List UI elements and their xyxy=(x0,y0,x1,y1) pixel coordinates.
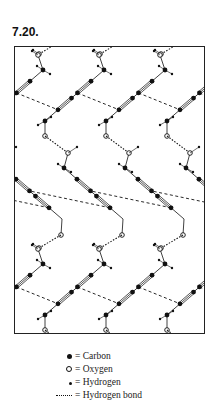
legend: = Carbon = Oxygen = Hydrogen = Hydrogen … xyxy=(46,350,142,402)
legend-hbond-label: = Hydrogen bond xyxy=(75,389,142,402)
legend-carbon: = Carbon xyxy=(46,350,142,363)
legend-hydrogen: = Hydrogen xyxy=(46,376,142,389)
oxygen-icon xyxy=(66,366,72,372)
legend-hydrogen-label: = Hydrogen xyxy=(75,376,121,389)
hydrogen-bond-icon xyxy=(56,395,72,396)
molecule-lattice xyxy=(15,47,205,334)
hydrogen-icon xyxy=(69,382,72,385)
legend-hbond: = Hydrogen bond xyxy=(46,389,142,402)
legend-carbon-label: = Carbon xyxy=(75,350,111,363)
carbon-icon xyxy=(67,354,72,359)
legend-oxygen-label: = Oxygen xyxy=(75,363,113,376)
figure-label: 7.20. xyxy=(12,25,39,39)
crystal-packing-diagram xyxy=(14,46,205,334)
legend-oxygen: = Oxygen xyxy=(46,363,142,376)
